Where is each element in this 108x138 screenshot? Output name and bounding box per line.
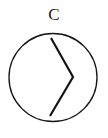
figure-panel: C (0, 0, 108, 138)
figure-canvas: C (0, 0, 108, 138)
figure-label-c: C (48, 5, 59, 24)
